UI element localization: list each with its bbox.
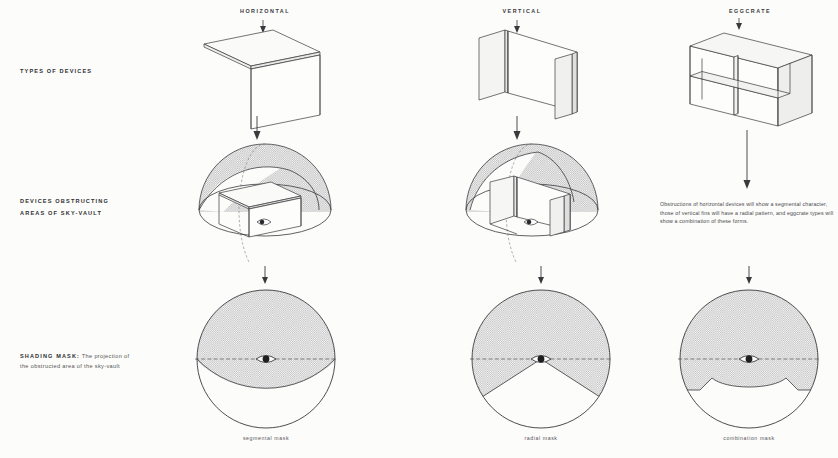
skyvault-dome-horizontal xyxy=(185,138,345,263)
eggcrate-explanatory-note: Obstructions of horizontal devices will … xyxy=(660,200,836,226)
column-header-eggcrate: EGGCRATE xyxy=(680,8,820,14)
row-label-devices-obstructing-line1: DEVICES OBSTRUCTING xyxy=(20,196,109,206)
down-arrow-icon xyxy=(736,18,742,30)
arrow-horizontal-row2-to-row3 xyxy=(255,266,275,286)
column-header-horizontal: HORIZONTAL xyxy=(195,8,335,14)
device-horizontal-overhang xyxy=(180,20,360,130)
down-arrow-icon xyxy=(514,20,520,33)
column-header-vertical: VERTICAL xyxy=(452,8,592,14)
combination-shaded-region xyxy=(678,288,820,390)
down-arrow-icon xyxy=(514,116,521,140)
arrow-vertical-row2-to-row3 xyxy=(531,266,551,286)
row-label-devices-obstructing-line2: AREAS OF SKY-VAULT xyxy=(20,208,102,218)
diagram-sheet: HORIZONTAL VERTICAL EGGCRATE TYPES OF DE… xyxy=(0,0,838,458)
row-label-shading-mask: SHADING MASK: The projection of the obst… xyxy=(20,352,200,371)
shading-mask-lead: SHADING MASK: xyxy=(20,353,80,359)
shading-mask-tail-1: The projection of xyxy=(80,353,129,359)
caption-radial-mask: radial mask xyxy=(471,435,611,441)
caption-combination-mask: combination mask xyxy=(679,435,819,441)
shading-mask-tail-2: the obstructed area of the sky-vault xyxy=(20,363,120,369)
down-arrow-icon xyxy=(538,266,544,284)
skyvault-dome-vertical xyxy=(452,138,612,263)
down-arrow-icon xyxy=(254,116,261,140)
device-eggcrate-grid xyxy=(680,18,838,133)
shading-mask-segmental xyxy=(193,286,339,432)
down-arrow-icon xyxy=(260,20,266,33)
down-arrow-icon xyxy=(744,130,751,189)
segmental-shaded-region xyxy=(195,288,337,389)
down-arrow-icon xyxy=(746,266,752,284)
device-vertical-fin xyxy=(455,20,625,130)
shading-mask-combination xyxy=(676,286,822,432)
caption-segmental-mask: segmental mask xyxy=(196,435,336,441)
arrow-eggcrate-row1-to-note xyxy=(735,130,759,192)
shading-mask-radial xyxy=(468,286,614,432)
arrow-eggcrate-note-to-row3 xyxy=(739,266,759,286)
row-label-types-of-devices: TYPES OF DEVICES xyxy=(20,66,92,76)
down-arrow-icon xyxy=(262,266,268,284)
